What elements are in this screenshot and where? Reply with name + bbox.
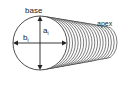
base-label: base — [25, 6, 43, 15]
apex-label: apex — [97, 20, 113, 28]
cone-diagram: base apex ai bi — [0, 0, 120, 88]
